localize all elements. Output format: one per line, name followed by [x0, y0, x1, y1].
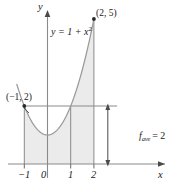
fave-arrow-head-down [105, 160, 110, 167]
fave-label-value: = 2 [152, 130, 165, 141]
x-tick-label-2: 2 [91, 170, 96, 181]
x-tick-label-0: 0 [41, 170, 46, 181]
x-tick-label-1: 1 [68, 170, 73, 181]
x-axis-arrowhead [158, 161, 165, 167]
point-label-2-5: (2, 5) [96, 9, 117, 19]
fave-arrow-head-up [105, 103, 110, 110]
point-marker-minus1-2 [22, 104, 26, 108]
point-label-minus1-2: (−1, 2) [6, 93, 32, 103]
x-tick-label-minus1: −1 [18, 170, 30, 181]
fave-label: fave= 2 [139, 131, 165, 141]
fave-label-subscript: ave [142, 135, 150, 142]
function-equation-label: y = 1 + x2 [51, 27, 92, 37]
y-axis-arrowhead [45, 10, 51, 17]
math-figure: y x (2, 5) (−1, 2) y = 1 + x2 fave= 2 −1… [0, 0, 177, 192]
x-axis-label: x [158, 170, 163, 181]
function-equation-exponent: 2 [88, 25, 92, 33]
shaded-area-fill [24, 19, 94, 164]
y-axis-label: y [38, 2, 43, 13]
function-equation-base: y = 1 + x [51, 26, 88, 37]
